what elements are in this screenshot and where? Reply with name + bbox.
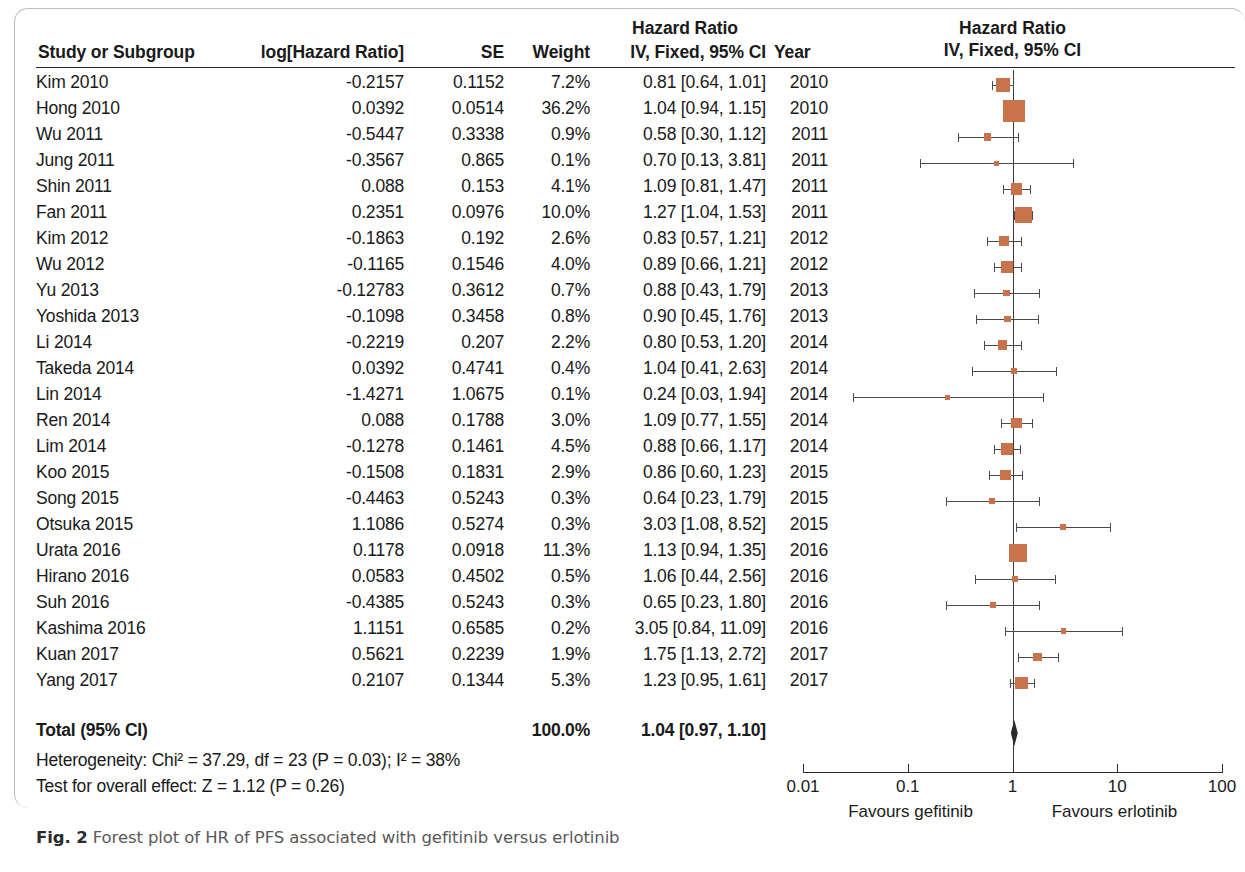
cell-study: Koo 2015 [36,462,236,483]
cell-study: Urata 2016 [36,540,236,561]
figure-caption: Fig. 2 Forest plot of HR of PFS associat… [36,828,620,847]
heterogeneity-text: Heterogeneity: Chi² = 37.29, df = 23 (P … [36,750,460,771]
confidence-interval-cap [1122,627,1123,636]
table-row: Kim 2010-0.21570.11527.2%0.81 [0.64, 1.0… [36,72,806,98]
cell-log-hr: 0.1178 [208,540,404,561]
confidence-interval-cap [1039,601,1040,610]
cell-log-hr: -1.4271 [208,384,404,405]
confidence-interval-cap [976,315,977,324]
cell-weight: 4.0% [498,254,590,275]
cell-se: 0.1344 [408,670,504,691]
cell-se: 0.865 [408,150,504,171]
cell-ci: 0.58 [0.30, 1.12] [596,124,766,145]
confidence-interval-cap [1073,159,1074,168]
table-header-top: Hazard Ratio [36,18,806,40]
cell-ci: 1.75 [1.13, 2.72] [596,644,766,665]
cell-log-hr: -0.12783 [208,280,404,301]
cell-weight: 0.7% [498,280,590,301]
cell-se: 0.207 [408,332,504,353]
cell-study: Yoshida 2013 [36,306,236,327]
table-row: Kashima 20161.11510.65850.2%3.05 [0.84, … [36,618,806,644]
cell-ci: 3.03 [1.08, 8.52] [596,514,766,535]
cell-ci: 1.23 [0.95, 1.61] [596,670,766,691]
cell-weight: 0.8% [498,306,590,327]
cell-study: Hong 2010 [36,98,236,119]
cell-study: Wu 2012 [36,254,236,275]
effect-size-marker [1060,524,1066,530]
cell-log-hr: -0.2219 [208,332,404,353]
effect-size-marker [1015,207,1031,223]
confidence-interval-cap [1020,445,1021,454]
cell-weight: 2.6% [498,228,590,249]
table-row: Kim 2012-0.18630.1922.6%0.83 [0.57, 1.21… [36,228,806,254]
total-label: Total (95% CI) [36,720,236,741]
cell-log-hr: -0.1508 [208,462,404,483]
cell-weight: 0.3% [498,514,590,535]
effect-size-marker [1003,100,1025,122]
cell-weight: 36.2% [498,98,590,119]
confidence-interval-cap [1030,185,1031,194]
cell-weight: 0.3% [498,592,590,613]
table-row: Song 2015-0.44630.52430.3%0.64 [0.23, 1.… [36,488,806,514]
cell-weight: 2.2% [498,332,590,353]
cell-weight: 0.9% [498,124,590,145]
cell-study: Fan 2011 [36,202,236,223]
cell-se: 0.3458 [408,306,504,327]
cell-log-hr: 1.1151 [208,618,404,639]
total-ci: 1.04 [0.97, 1.10] [596,720,766,741]
cell-ci: 1.09 [0.81, 1.47] [596,176,766,197]
plot-subtitle: IV, Fixed, 95% CI [790,40,1235,61]
confidence-interval-cap [987,237,988,246]
cell-se: 0.0514 [408,98,504,119]
cell-log-hr: -0.1165 [208,254,404,275]
cell-ci: 0.80 [0.53, 1.20] [596,332,766,353]
cell-ci: 0.90 [0.45, 1.76] [596,306,766,327]
cell-weight: 7.2% [498,72,590,93]
cell-ci: 0.65 [0.23, 1.80] [596,592,766,613]
cell-log-hr: 0.088 [208,176,404,197]
cell-log-hr: 0.5621 [208,644,404,665]
cell-study: Hirano 2016 [36,566,236,587]
effect-size-marker [1001,443,1013,455]
table-row: Otsuka 20151.10860.52740.3%3.03 [1.08, 8… [36,514,806,540]
cell-log-hr: 0.2107 [208,670,404,691]
confidence-interval-cap [994,445,995,454]
confidence-interval-cap [1039,289,1040,298]
effect-size-marker [998,340,1007,349]
axis-tick-label: 0.01 [768,777,838,797]
cell-se: 0.1788 [408,410,504,431]
cell-ci: 1.13 [0.94, 1.35] [596,540,766,561]
effect-size-marker [989,498,995,504]
cell-se: 0.0918 [408,540,504,561]
favours-right-label: Favours erlotinib [1015,802,1215,822]
table-row: Koo 2015-0.15080.18312.9%0.86 [0.60, 1.2… [36,462,806,488]
table-row: Yoshida 2013-0.10980.34580.8%0.90 [0.45,… [36,306,806,332]
effect-size-marker [1003,290,1010,297]
cell-log-hr: -0.3567 [208,150,404,171]
forest-plot: Hazard Ratio IV, Fixed, 95% CI 0.010.111… [790,18,1235,798]
cell-study: Otsuka 2015 [36,514,236,535]
cell-ci: 0.88 [0.43, 1.79] [596,280,766,301]
effect-size-marker [1033,653,1042,662]
cell-ci: 0.24 [0.03, 1.94] [596,384,766,405]
cell-se: 0.5243 [408,592,504,613]
cell-ci: 3.05 [0.84, 11.09] [596,618,766,639]
effect-size-marker [984,133,991,140]
hazard-ratio-group-header: Hazard Ratio [605,18,765,39]
cell-weight: 3.0% [498,410,590,431]
effect-size-marker [1012,576,1018,582]
cell-se: 0.153 [408,176,504,197]
cell-log-hr: 0.0392 [208,358,404,379]
effect-size-marker [994,161,999,166]
cell-se: 0.4502 [408,566,504,587]
cell-ci: 0.83 [0.57, 1.21] [596,228,766,249]
confidence-interval-cap [1018,653,1019,662]
cell-study: Ren 2014 [36,410,236,431]
effect-size-marker [1011,368,1017,374]
effect-size-marker [1000,470,1010,480]
confidence-interval-cap [994,263,995,272]
cell-se: 0.1461 [408,436,504,457]
cell-study: Kim 2012 [36,228,236,249]
confidence-interval-cap [946,601,947,610]
confidence-interval-cap [1018,133,1019,142]
